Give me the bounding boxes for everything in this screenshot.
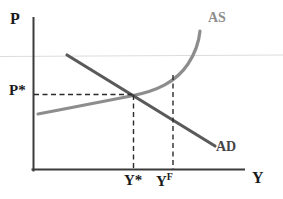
full-employment-output-base: Y xyxy=(156,173,167,189)
ad-curve xyxy=(67,55,215,146)
as-curve-label: AS xyxy=(208,11,226,25)
equilibrium-price-label: P* xyxy=(9,83,26,98)
equilibrium-output-label: Y* xyxy=(124,173,142,188)
background-rule xyxy=(0,55,283,57)
y-axis-label: P xyxy=(10,11,20,27)
diagram-canvas xyxy=(0,0,283,199)
as-ad-diagram: P Y P* Y* YF AS AD xyxy=(0,0,283,199)
full-employment-output-superscript: F xyxy=(167,171,173,182)
x-axis-label: Y xyxy=(252,170,264,186)
full-employment-output-label: YF xyxy=(156,172,173,189)
as-curve xyxy=(38,31,200,114)
ad-curve-label: AD xyxy=(216,140,236,154)
